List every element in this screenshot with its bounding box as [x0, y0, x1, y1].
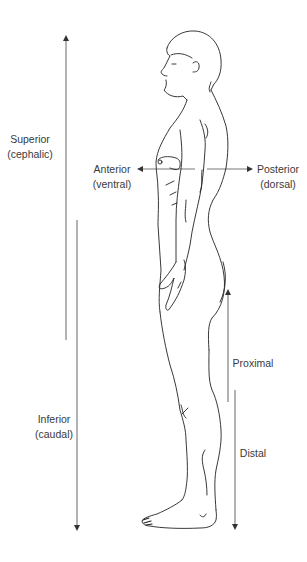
human-figure — [142, 31, 228, 528]
posterior-term: Posterior — [251, 162, 305, 177]
superior-term: Superior — [2, 132, 58, 147]
distal-label: Distal — [238, 446, 268, 461]
diagram-canvas — [0, 0, 307, 562]
posterior-label: Posterior (dorsal) — [251, 162, 305, 192]
anterior-term: Anterior — [86, 162, 138, 177]
proximal-term: Proximal — [232, 356, 274, 371]
posterior-synonym: (dorsal) — [251, 177, 305, 192]
anterior-label: Anterior (ventral) — [86, 162, 138, 192]
inferior-label: Inferior (caudal) — [26, 412, 82, 442]
superior-label: Superior (cephalic) — [2, 132, 58, 162]
inferior-term: Inferior — [26, 412, 82, 427]
distal-term: Distal — [238, 446, 268, 461]
anterior-synonym: (ventral) — [86, 177, 138, 192]
superior-synonym: (cephalic) — [2, 147, 58, 162]
inferior-synonym: (caudal) — [26, 427, 82, 442]
proximal-label: Proximal — [232, 356, 274, 371]
